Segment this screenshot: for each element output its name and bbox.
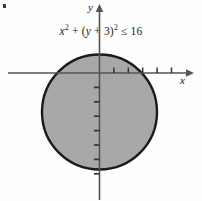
y-axis-arrowhead — [96, 4, 104, 12]
x-axis-label: x — [180, 74, 185, 86]
x-axis-arrowhead — [186, 69, 194, 77]
inequality-graph-figure: x2 + (y + 3)2 ≤ 16 y x — [0, 0, 202, 201]
graph-canvas — [0, 0, 202, 201]
y-axis-label: y — [88, 1, 93, 13]
